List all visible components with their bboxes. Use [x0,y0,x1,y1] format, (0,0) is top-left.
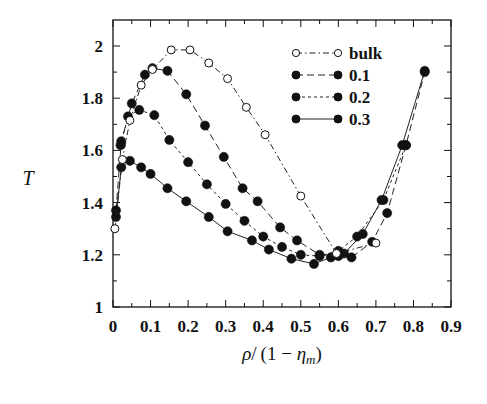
x-axis-label: ρ/(1 − ηm) [241,343,322,367]
x-tick-label: 0.5 [290,317,311,336]
legend-label: bulk [349,44,383,63]
legend-marker [292,49,299,56]
x-tick-label: 0.3 [215,317,236,336]
y-tick-label: 1.8 [82,89,103,108]
data-point [126,116,134,124]
data-point [165,135,174,144]
data-point [146,169,155,178]
data-point [182,197,191,206]
data-point [383,208,392,217]
legend-item-0-1: 0.1 [292,66,370,85]
legend-label: 0.3 [349,110,370,129]
legend-marker [334,49,341,56]
legend-marker [334,115,342,123]
data-point [238,184,247,193]
data-point [186,46,194,54]
data-series [111,46,429,269]
data-point [163,184,172,193]
y-tick-label: 1.4 [82,194,104,213]
data-point [261,131,269,139]
data-point [372,239,380,247]
y-tick-label: 2 [95,37,104,56]
data-point [182,90,191,99]
data-point [184,158,193,167]
data-point [309,259,318,268]
legend-item-bulk: bulk [292,44,382,63]
y-tick-label: 1.6 [82,141,103,160]
legend-item-0-3: 0.3 [292,110,370,129]
data-point [332,249,340,257]
data-point [137,81,145,89]
x-tick-label: 0.7 [365,317,387,336]
data-point [277,242,286,251]
data-point [401,141,410,150]
legend-marker [292,115,300,123]
data-point [379,195,388,204]
data-point [200,121,209,130]
x-tick-labels: 00.10.20.30.40.50.60.70.80.9 [109,317,462,336]
data-point [118,156,126,164]
data-point [315,250,324,259]
legend-label: 0.2 [349,88,370,107]
data-point [353,232,362,241]
legend-marker [292,71,300,79]
data-point [292,236,301,245]
legend-marker [334,71,342,79]
y-tick-label: 1.2 [82,246,103,265]
data-point [204,212,213,221]
data-point [167,46,175,54]
x-label-slash: / [251,343,257,364]
series-0-3 [111,66,429,268]
y-tick-labels: 11.21.41.61.82 [82,37,104,317]
legend-marker [292,93,300,101]
x-tick-label: 0.1 [140,317,161,336]
data-point [253,197,262,206]
data-point [242,103,250,111]
data-point [148,65,156,73]
legend-marker [334,93,342,101]
series-line [116,68,425,257]
data-point [259,232,268,241]
plot-frame [113,20,451,307]
y-tick-label: 1 [95,298,104,317]
x-label-sub: m [306,352,315,367]
data-point [223,227,232,236]
data-point [224,75,232,83]
data-point [202,180,211,189]
series-line [116,71,425,264]
legend-item-0-2: 0.2 [292,88,370,107]
data-point [287,254,296,263]
data-point [247,236,256,245]
data-point [264,245,273,254]
data-point [276,223,285,232]
data-point [347,253,356,262]
x-tick-label: 0 [109,317,118,336]
data-point [205,59,213,67]
data-point [117,137,126,146]
x-label-close: ) [315,343,321,365]
x-tick-label: 0.9 [440,317,461,336]
x-tick-label: 0.6 [328,317,349,336]
legend: bulk0.10.20.3 [292,44,383,129]
legend-label: 0.1 [349,66,370,85]
data-point [163,66,172,75]
x-label-eta: η [297,343,306,364]
x-tick-label: 0.4 [253,317,275,336]
data-point [135,105,144,114]
data-point [137,163,146,172]
data-point [219,152,228,161]
data-point [221,199,230,208]
data-point [297,192,305,200]
x-tick-label: 0.8 [403,317,424,336]
series-0-1 [111,64,429,262]
data-point [240,216,249,225]
data-point [296,250,305,259]
x-label-rho: ρ [241,343,251,364]
x-tick-label: 0.2 [177,317,198,336]
data-point [111,206,120,215]
axis-ticks [113,20,451,307]
chart: 00.10.20.30.40.50.60.70.80.9 11.21.41.61… [0,0,487,404]
data-point [150,111,159,120]
data-point [420,68,429,77]
x-label-open: (1 − [261,343,297,365]
